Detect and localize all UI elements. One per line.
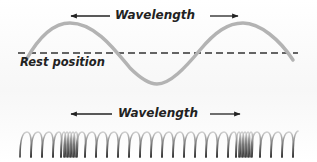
diagram-graphics — [0, 0, 317, 162]
bottom-wavelength-label: Wavelength — [118, 107, 198, 119]
rest-position-label: Rest position — [20, 57, 105, 69]
top-wavelength-label: Wavelength — [115, 9, 195, 21]
wave-diagram: Wavelength Rest position Wavelength — [0, 0, 317, 162]
spring-coil — [20, 131, 298, 157]
